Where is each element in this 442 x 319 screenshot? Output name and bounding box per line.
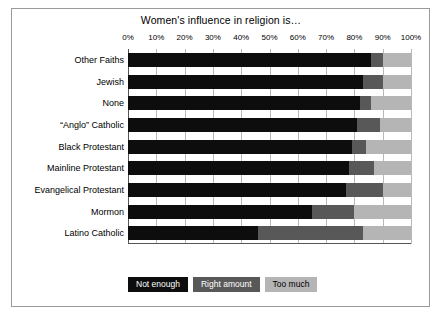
x-tick-label: 100%: [401, 33, 421, 42]
y-tick-label: None: [102, 96, 124, 110]
x-tick-label: 60%: [290, 33, 306, 42]
x-tick-label: 70%: [318, 33, 334, 42]
bar-segment: [383, 75, 411, 89]
bar-segment: [128, 161, 349, 175]
bar-segment: [360, 96, 371, 110]
bar-segment: [128, 118, 357, 132]
y-axis-category-labels: Other FaithsJewishNone“Anglo” CatholicBl…: [14, 49, 124, 244]
bar-segment: [128, 140, 352, 154]
bar-segment: [354, 205, 411, 219]
bar-segment: [380, 118, 411, 132]
y-tick-label: Black Protestant: [58, 140, 124, 154]
y-tick-label: “Anglo” Catholic: [60, 118, 124, 132]
bar-row: [128, 118, 411, 132]
x-axis-tick-labels: 0%10%20%30%40%50%60%70%80%90%100%: [128, 33, 411, 45]
bar-row: [128, 183, 411, 197]
y-tick-label: Mormon: [91, 205, 124, 219]
bar-segment: [128, 96, 360, 110]
bar-row: [128, 205, 411, 219]
legend-label: Right amount: [201, 277, 252, 292]
y-tick-label: Mainline Protestant: [47, 161, 124, 175]
bar-segment: [371, 53, 382, 67]
bar-segment: [312, 205, 354, 219]
x-tick-label: 50%: [261, 33, 277, 42]
x-tick-label: 90%: [375, 33, 391, 42]
bar-segment: [357, 118, 380, 132]
chart-figure: Women's influence in religion is… 0%10%2…: [0, 0, 442, 319]
x-tick-label: 0%: [122, 33, 134, 42]
y-tick-label: Latino Catholic: [64, 226, 124, 240]
bar-segment: [128, 75, 363, 89]
bar-row: [128, 140, 411, 154]
bar-row: [128, 161, 411, 175]
bar-segment: [128, 183, 346, 197]
bar-segment: [258, 226, 363, 240]
bar-segment: [383, 183, 411, 197]
bar-segment: [366, 140, 411, 154]
bar-segment: [383, 53, 411, 67]
x-tick-label: 10%: [148, 33, 164, 42]
chart-legend: Not enoughRight amountToo much: [128, 277, 322, 292]
y-tick-label: Evangelical Protestant: [34, 183, 124, 197]
x-tick-label: 40%: [233, 33, 249, 42]
x-tick-label: 80%: [346, 33, 362, 42]
bar-segment: [374, 161, 411, 175]
legend-label: Too much: [273, 277, 310, 292]
bar-segment: [352, 140, 366, 154]
bar-row: [128, 75, 411, 89]
chart-title: Women's influence in religion is…: [0, 14, 442, 26]
bar-segment: [128, 226, 258, 240]
bar-segment: [346, 183, 383, 197]
legend-item: Right amount: [193, 277, 260, 292]
legend-item: Too much: [265, 277, 318, 292]
legend-item: Not enough: [128, 277, 188, 292]
bar-segment: [349, 161, 374, 175]
x-tick-label: 20%: [177, 33, 193, 42]
plot-area: [128, 49, 411, 244]
legend-label: Not enough: [136, 277, 180, 292]
x-tick-label: 30%: [205, 33, 221, 42]
bar-row: [128, 226, 411, 240]
bar-segment: [371, 96, 411, 110]
bar-row: [128, 96, 411, 110]
bar-row: [128, 53, 411, 67]
stacked-bars: [128, 49, 411, 244]
y-tick-label: Other Faiths: [74, 53, 124, 67]
bar-segment: [363, 226, 411, 240]
y-tick-label: Jewish: [96, 75, 124, 89]
bar-segment: [363, 75, 383, 89]
bar-segment: [128, 53, 371, 67]
bar-segment: [128, 205, 312, 219]
